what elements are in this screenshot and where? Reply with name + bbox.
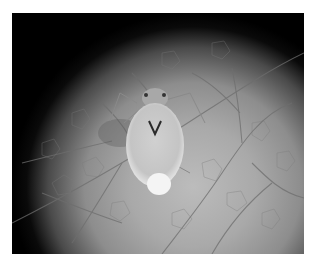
aphid bbox=[12, 13, 304, 254]
figure-caption bbox=[14, 260, 224, 265]
aphid-leaf-photo bbox=[12, 13, 304, 254]
